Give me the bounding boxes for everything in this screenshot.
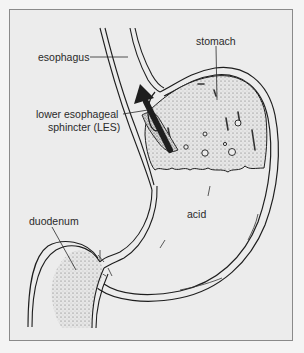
- label-les-line1: lower esophageal: [36, 108, 118, 120]
- duodenum-bulb: [52, 250, 103, 328]
- label-duodenum: duodenum: [29, 215, 79, 227]
- label-acid: acid: [187, 208, 206, 220]
- lesser-curvature: [100, 186, 157, 268]
- label-esophagus: esophagus: [38, 51, 89, 63]
- label-les-line2: sphincter (LES): [48, 121, 120, 133]
- label-stomach: stomach: [196, 35, 236, 47]
- stomach-wall-detail: [160, 186, 258, 290]
